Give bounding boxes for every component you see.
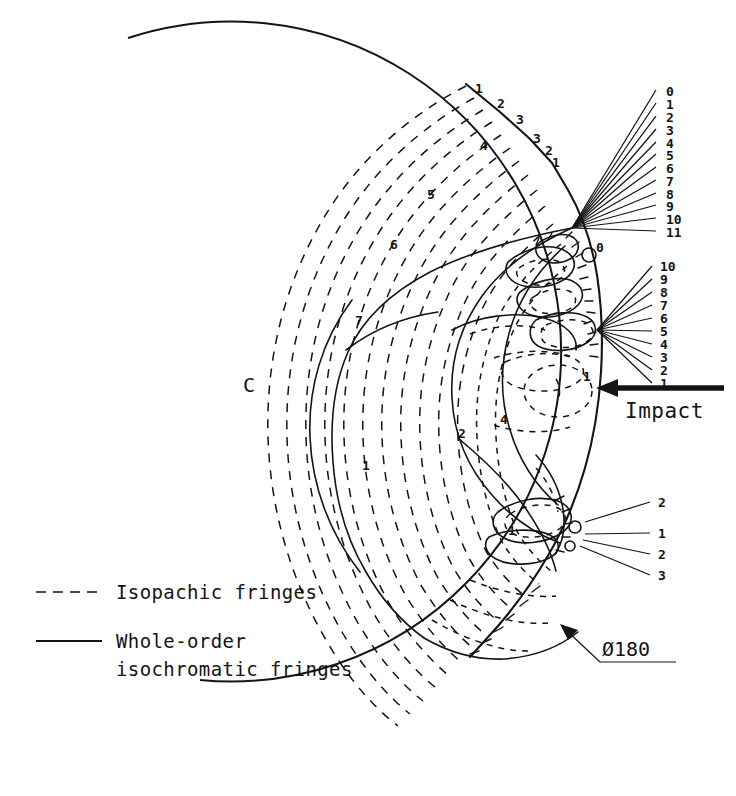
middle-fan-labels: 10 9 8 7 6 5 4 3 2 1	[660, 259, 676, 391]
inline-label-7: 5	[427, 187, 435, 202]
lower-fan-label-0: 2	[658, 495, 666, 510]
lower-fan-label-3: 3	[658, 568, 666, 583]
inline-label-8: 6	[390, 237, 398, 252]
impact-label: Impact	[625, 399, 704, 423]
lower-rosette-lobes	[458, 438, 581, 571]
diameter-arrowhead	[560, 624, 578, 640]
legend-isochromatic-label-line1: Whole-order	[116, 630, 246, 652]
middle-leader-fan	[597, 266, 652, 383]
figure-root: 0 1 2 3 4 5 6 7 8 9 10 11 10 9 8 7 6 5 4…	[0, 0, 736, 796]
inline-label-10: 7	[355, 313, 363, 328]
legend-isochromatic-label-line2: isochromatic fringes	[116, 658, 353, 680]
middle-rosette-lobes	[452, 313, 598, 391]
inline-label-14: 1	[362, 458, 370, 473]
middle-fan-label-1: 1	[660, 376, 668, 391]
isopachic-fringe-set	[268, 86, 567, 726]
lower-fan-label-1: 1	[658, 526, 666, 541]
lower-dashed-shading	[432, 580, 556, 651]
disc-boundary	[466, 84, 602, 657]
inline-label-6: 1	[552, 155, 560, 170]
lower-leader-fan	[580, 502, 650, 575]
inline-label-13: 2	[458, 426, 466, 441]
isochromatic-fringe-set	[310, 228, 578, 659]
lower-fan-label-2: 2	[658, 547, 666, 562]
inline-label-15: 1	[508, 523, 516, 538]
inline-fringe-labels: 1 2 3 4 3 2 1 5 6 0 7 1 4 2 1 1	[355, 81, 604, 538]
inline-label-3: 4	[480, 138, 488, 153]
center-label: C	[243, 373, 255, 397]
inline-label-9: 0	[596, 240, 604, 255]
lower-fan-labels: 2 1 2 3	[658, 495, 666, 583]
inline-label-4: 3	[533, 131, 541, 146]
upper-fan-label-11: 11	[666, 225, 682, 240]
inline-label-12: 4	[500, 412, 508, 427]
legend-isopachic-label: Isopachic fringes	[116, 581, 317, 603]
upper-fan-labels: 0 1 2 3 4 5 6 7 8 9 10 11	[666, 84, 682, 240]
fringe-pattern-diagram: 0 1 2 3 4 5 6 7 8 9 10 11 10 9 8 7 6 5 4…	[0, 0, 736, 796]
inline-label-11: 1	[583, 369, 591, 384]
inline-label-0: 1	[475, 81, 483, 96]
legend-sample-lines	[36, 592, 102, 641]
upper-leader-fan	[572, 90, 656, 231]
diameter-label: Ø180	[602, 637, 650, 661]
inline-label-1: 2	[497, 96, 505, 111]
inline-label-2: 3	[516, 112, 524, 127]
